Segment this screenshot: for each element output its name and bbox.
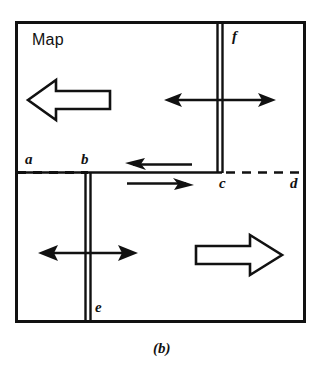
node-label-a: a <box>25 152 33 167</box>
node-label-b: b <box>81 152 89 167</box>
node-label-e: e <box>95 300 102 315</box>
figure-caption: (b) <box>153 341 171 356</box>
node-label-d: d <box>290 176 298 191</box>
node-label-c: c <box>219 176 226 191</box>
map-diagram-svg <box>0 0 328 370</box>
node-label-f: f <box>232 29 237 44</box>
map-title-label: Map <box>32 32 64 48</box>
map-figure: Map a b c d e f (b) <box>0 0 328 370</box>
